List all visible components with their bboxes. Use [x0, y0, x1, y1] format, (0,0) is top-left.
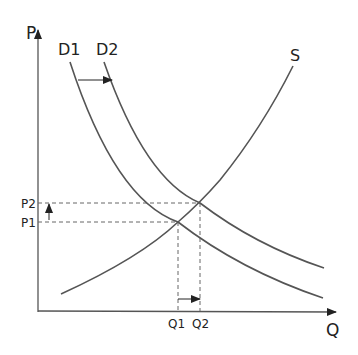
p2-label: P2: [21, 197, 36, 211]
p1-label: P1: [21, 216, 36, 230]
q-axis-label: Q: [326, 320, 339, 340]
s-curve: [61, 66, 293, 294]
d1-label: D1: [58, 40, 81, 59]
q2-label: Q2: [192, 317, 209, 331]
p-axis-label: P: [26, 23, 36, 43]
d2-label: D2: [96, 40, 119, 59]
supply-demand-diagram: P Q D1 D2 S P2 P1 Q1 Q2: [0, 0, 358, 355]
q-axis: [38, 311, 336, 312]
diagram-canvas: P Q D1 D2 S P2 P1 Q1 Q2: [0, 0, 358, 355]
q1-label: Q1: [168, 317, 185, 331]
d2-curve: [104, 62, 324, 268]
s-label: S: [290, 46, 300, 65]
d1-curve: [70, 62, 323, 298]
